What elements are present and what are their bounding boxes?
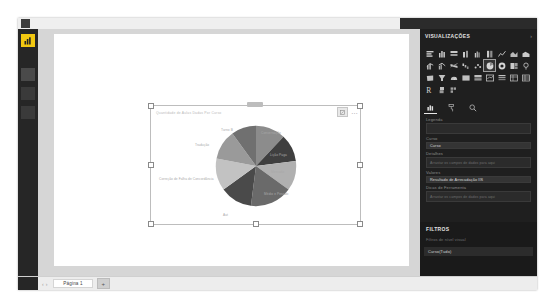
slice-label-6: Tradução [195,143,209,147]
slice-label-5: Correção de Falha de Concordância [159,177,214,181]
waterfall-chart-icon[interactable] [460,60,471,71]
resize-handle-top-left[interactable] [148,103,154,109]
pie-plot-area: Conversação Lição Paga Mercado Médio e P… [151,114,360,224]
well-dropzone[interactable]: Resultado de Arrecadação IÍS [426,176,531,183]
area-chart-icon[interactable] [508,48,519,59]
well-label: Valores [426,170,531,175]
well-1: CursoCurso [420,135,537,150]
clustered-column-icon[interactable] [472,48,483,59]
donut-chart-icon[interactable] [496,60,507,71]
well-dropzone[interactable] [426,123,531,134]
map-icon[interactable] [520,60,531,71]
clustered-bar-chart-icon[interactable] [436,48,447,59]
drag-handle-top-center[interactable] [247,102,263,107]
filters-level-label: Filtros de nível visual [420,234,537,245]
scatter-chart-icon[interactable] [472,60,483,71]
well-label: Curso [426,136,531,141]
well-4: Dicas de FerramentaArrastar os campos de… [420,184,537,203]
stacked-column-icon[interactable] [460,48,471,59]
app-menu-icon[interactable] [21,19,30,28]
analytics-tab[interactable] [466,102,479,113]
well-field-chip: Curso [430,144,441,148]
kpi-icon[interactable] [484,72,495,83]
chevron-right-icon[interactable]: › [530,33,532,39]
rail-item-model-view[interactable] [21,106,35,119]
well-label: Dicas de Ferramenta [426,185,531,190]
well-3: ValoresResultado de Arrecadação IÍS [420,169,537,184]
well-field-chip: Resultado de Arrecadação IÍS [430,178,483,182]
rail-item-report-view[interactable] [21,68,35,81]
page-bar-rail-stub [18,277,38,290]
slice-label-4: Aut [223,213,228,217]
matrix-icon[interactable] [520,72,531,83]
slice-label-1: Lição Paga [270,153,287,157]
treemap-icon[interactable] [508,60,519,71]
gauge-icon[interactable] [448,72,459,83]
well-placeholder: Arrastar os campos de dados para aqui [430,195,495,199]
line-chart-icon[interactable] [496,48,507,59]
pie-chart-icon[interactable] [484,60,495,71]
resize-handle-middle-right[interactable] [357,162,363,168]
left-nav-rail [18,29,38,290]
well-placeholder: Arrastar os campos de dados para aqui [430,161,495,165]
resize-handle-bottom-center[interactable] [253,221,259,227]
title-bar [18,18,537,29]
resize-handle-bottom-right[interactable] [357,221,363,227]
rail-item-data-view[interactable] [21,87,35,100]
well-dropzone[interactable]: Curso [426,142,531,149]
r-script-visual-icon[interactable]: R [424,84,435,95]
page-next-icon[interactable]: › [46,280,48,288]
page-tab-bar: ‹ › Página 1 + [18,276,537,290]
page-tab-pagina-1[interactable]: Página 1 [53,279,92,288]
svg-text:R: R [426,85,432,94]
resize-handle-bottom-left[interactable] [148,221,154,227]
resize-handle-top-right[interactable] [357,103,363,109]
well-label: Detalhes [426,151,531,156]
field-wells: LegendaCursoCursoDetalhesArrastar os cam… [420,116,537,203]
report-canvas[interactable]: Quantidade de Aulas Dadas Por Curso … [54,34,409,266]
pie-chart-visual[interactable]: Quantidade de Aulas Dadas Por Curso … [150,105,361,225]
card-icon[interactable] [460,72,471,83]
stacked-area-icon[interactable] [520,48,531,59]
canvas-background[interactable]: Quantidade de Aulas Dadas Por Curso … [38,29,420,277]
multi-row-card-icon[interactable] [472,72,483,83]
add-page-button[interactable]: + [97,278,110,289]
ribbon-chart-icon[interactable] [448,60,459,71]
filters-section: FILTROS Filtros de nível visual Curso(Tu… [420,222,537,277]
get-more-visuals-icon[interactable] [448,84,459,95]
line-clustered-column-icon[interactable] [436,60,447,71]
slice-label-7: Turno B [221,128,233,132]
slice-label-0: Conversação [261,131,281,135]
screenshot-root: Quantidade de Aulas Dadas Por Curso … [0,0,555,308]
fields-tab[interactable] [424,102,437,114]
filter-item-curso[interactable]: Curso(Tudo) [424,247,533,256]
100-stacked-column-icon[interactable] [484,48,495,59]
line-stacked-column-icon[interactable] [424,60,435,71]
resize-handle-middle-left[interactable] [148,162,154,168]
well-2: DetalhesArrastar os campos de dados para… [420,150,537,169]
python-visual-icon[interactable] [436,84,447,95]
well-dropzone[interactable]: Arrastar os campos de dados para aqui [426,157,531,168]
visual-type-grid[interactable]: R [424,48,534,95]
well-dropzone[interactable]: Arrastar os campos de dados para aqui [426,191,531,202]
table-icon[interactable] [508,72,519,83]
powerbi-logo-icon [21,34,35,47]
title-bar-right-region [400,18,537,29]
visualizations-pane-title: VISUALIZAÇÕES [425,33,470,39]
powerbi-window: Quantidade de Aulas Dadas Por Curso … [18,18,537,290]
stacked-bar-chart-icon[interactable] [424,48,435,59]
100-stacked-bar-icon[interactable] [448,48,459,59]
well-0: Legenda [420,116,537,135]
pane-tab-strip [424,101,534,114]
slice-label-3: Médio e Pesado [264,192,288,196]
funnel-icon[interactable] [436,72,447,83]
slice-label-2: Mercado [271,170,284,174]
visualizations-pane: VISUALIZAÇÕES › R [420,29,537,277]
slicer-icon[interactable] [496,72,507,83]
format-tab[interactable] [445,102,458,113]
filled-map-icon[interactable] [424,72,435,83]
visualizations-pane-header: VISUALIZAÇÕES › [420,29,537,42]
filters-title: FILTROS [420,222,537,234]
page-prev-icon[interactable]: ‹ [42,280,44,288]
page-nav-arrows: ‹ › [42,280,47,288]
